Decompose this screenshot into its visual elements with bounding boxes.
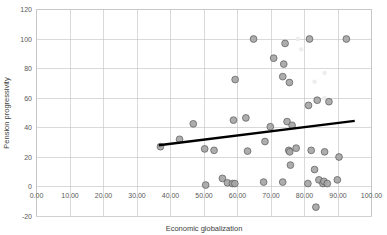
data-point bbox=[314, 97, 321, 104]
data-point bbox=[267, 123, 274, 130]
x-tick-label: 30.00 bbox=[128, 192, 146, 199]
data-point bbox=[304, 180, 311, 187]
data-point bbox=[326, 98, 333, 105]
faint-mark bbox=[296, 37, 300, 41]
data-point bbox=[279, 179, 286, 186]
data-point bbox=[211, 147, 218, 154]
data-point bbox=[336, 154, 343, 161]
data-point bbox=[308, 147, 315, 154]
y-tick-label: 20 bbox=[24, 154, 32, 161]
data-point bbox=[287, 162, 294, 169]
data-point bbox=[279, 73, 286, 80]
y-tick-labels: -20020406080100120 bbox=[20, 6, 32, 220]
y-tick-label: 100 bbox=[20, 36, 32, 43]
data-point bbox=[244, 148, 251, 155]
data-point bbox=[230, 117, 237, 124]
chart-canvas: -20020406080100120 0.0010.0020.0030.0040… bbox=[0, 0, 387, 235]
data-point bbox=[311, 166, 318, 173]
data-point bbox=[190, 120, 197, 127]
data-point bbox=[231, 180, 238, 187]
data-points bbox=[157, 36, 350, 211]
y-tick-label: -20 bbox=[22, 213, 32, 220]
x-tick-label: 20.00 bbox=[95, 192, 113, 199]
data-point bbox=[250, 36, 257, 43]
watermark-marks bbox=[289, 37, 327, 128]
faint-mark bbox=[322, 71, 326, 75]
data-point bbox=[282, 40, 289, 47]
y-tick-label: 120 bbox=[20, 6, 32, 13]
data-point bbox=[270, 55, 277, 62]
data-point bbox=[262, 138, 269, 145]
y-axis-title: Pension progressivity bbox=[2, 77, 11, 149]
data-point bbox=[312, 204, 319, 211]
data-point bbox=[324, 180, 331, 187]
x-tick-label: 90.00 bbox=[329, 192, 347, 199]
data-point bbox=[202, 182, 209, 189]
y-tick-label: 60 bbox=[24, 95, 32, 102]
data-point bbox=[293, 145, 300, 152]
faint-mark bbox=[312, 80, 316, 84]
y-tick-label: 80 bbox=[24, 65, 32, 72]
x-tick-label: 40.00 bbox=[162, 192, 180, 199]
data-point bbox=[280, 61, 287, 68]
x-tick-label: 50.00 bbox=[195, 192, 213, 199]
faint-mark bbox=[299, 47, 303, 51]
data-point bbox=[321, 148, 328, 155]
data-point bbox=[201, 145, 208, 152]
y-tick-label: 0 bbox=[28, 183, 32, 190]
scatter-chart: -20020406080100120 0.0010.0020.0030.0040… bbox=[0, 0, 387, 235]
x-tick-label: 80.00 bbox=[296, 192, 314, 199]
x-tick-labels: 0.0010.0020.0030.0040.0050.0060.0070.008… bbox=[30, 192, 383, 199]
trendline bbox=[159, 121, 355, 145]
data-point bbox=[242, 115, 249, 122]
x-tick-label: 60.00 bbox=[229, 192, 247, 199]
data-point bbox=[286, 79, 293, 86]
data-point bbox=[306, 36, 313, 43]
data-point bbox=[286, 148, 293, 155]
data-point bbox=[260, 179, 267, 186]
data-point bbox=[334, 176, 341, 183]
x-axis-title: Economic globalization bbox=[166, 224, 243, 233]
data-point bbox=[305, 102, 312, 109]
x-tick-label: 70.00 bbox=[262, 192, 280, 199]
x-tick-label: 100.00 bbox=[361, 192, 383, 199]
x-tick-label: 10.00 bbox=[61, 192, 79, 199]
data-point bbox=[343, 36, 350, 43]
data-point bbox=[232, 76, 239, 83]
y-tick-label: 40 bbox=[24, 124, 32, 131]
x-tick-label: 0.00 bbox=[30, 192, 44, 199]
